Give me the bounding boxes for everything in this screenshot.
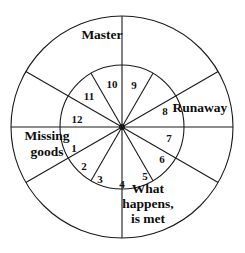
outer-sector-label-master: Master (81, 27, 122, 42)
inner-spoke-10 (122, 73, 153, 127)
label-line: What (132, 181, 165, 196)
outer-sector-label-what-happens-is-met: Whathappens,is met (122, 181, 173, 226)
label-line: Master (81, 27, 122, 42)
label-line: goods (30, 144, 63, 159)
wheel-diagram: 123456789101112 MasterRunawayMissinggood… (0, 0, 245, 253)
inner-sector-number-3: 3 (97, 173, 103, 185)
outer-sector-label-runaway: Runaway (173, 100, 228, 115)
inner-sector-number-9: 9 (131, 79, 137, 91)
inner-sector-number-2: 2 (81, 160, 87, 172)
label-line: Missing (24, 128, 69, 143)
outer-spoke-1 (176, 158, 218, 183)
label-line: Runaway (173, 100, 228, 115)
outer-sector-label-missing-goods: Missinggoods (24, 128, 69, 159)
inner-sector-number-6: 6 (159, 153, 165, 165)
inner-sector-number-5: 5 (142, 170, 148, 182)
outer-spoke-5 (26, 72, 68, 97)
label-line: happens, (122, 196, 173, 211)
outer-spoke-7 (176, 72, 218, 97)
inner-sector-number-12: 12 (72, 113, 84, 125)
inner-spoke-4 (91, 127, 122, 181)
inner-sector-number-11: 11 (84, 90, 94, 102)
inner-sector-number-8: 8 (162, 105, 168, 117)
inner-sector-number-4: 4 (119, 178, 125, 190)
inner-sector-number-10: 10 (107, 78, 119, 90)
inner-sector-number-1: 1 (71, 142, 77, 154)
label-line: is met (131, 211, 166, 226)
outer-spoke-3 (26, 158, 68, 183)
wheel-svg: 123456789101112 MasterRunawayMissinggood… (0, 0, 245, 253)
inner-spoke-2 (122, 127, 153, 181)
inner-sector-number-7: 7 (166, 132, 172, 144)
center-hub (119, 124, 125, 130)
